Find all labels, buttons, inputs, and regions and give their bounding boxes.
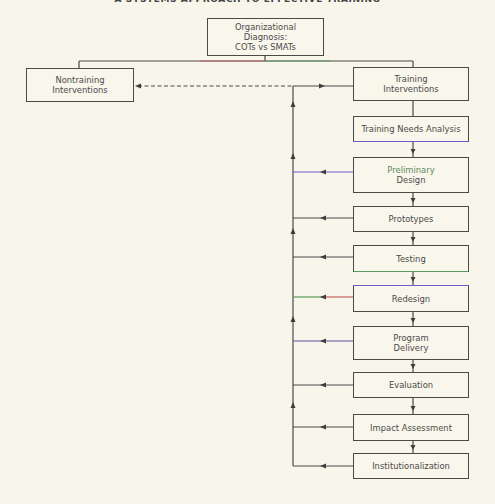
node-prototypes: Prototypes <box>353 206 469 232</box>
node-label: Diagnosis: <box>244 32 288 42</box>
arrow-left-icon <box>320 464 326 469</box>
node-evaluation: Evaluation <box>353 372 469 398</box>
arrow-up-icon <box>291 228 296 234</box>
node-training-needs-analysis: Training Needs Analysis <box>353 116 469 142</box>
arrow-up-icon <box>291 153 296 159</box>
arrow-left-icon <box>320 383 326 388</box>
node-label: Delivery <box>394 343 429 353</box>
node-testing: Testing <box>353 245 469 272</box>
arrow-left-icon <box>320 255 326 260</box>
node-label: Interventions <box>383 84 438 94</box>
arrow-left-icon <box>320 295 326 300</box>
node-label: Institutionalization <box>372 461 450 471</box>
node-label: Interventions <box>52 85 107 95</box>
arrow-right-icon <box>319 84 325 89</box>
arrow-up-icon <box>291 402 296 408</box>
node-training-interventions: Training Interventions <box>353 67 469 101</box>
node-label: Preliminary <box>387 165 434 175</box>
arrow-left-icon <box>320 216 326 221</box>
node-label: COTs vs SMATs <box>235 42 296 52</box>
node-label: Program <box>393 333 428 343</box>
arrow-left-icon <box>320 339 326 344</box>
node-label: Design <box>397 175 426 185</box>
arrow-up-icon <box>291 316 296 322</box>
arrow-up-icon <box>291 101 296 107</box>
node-nontraining-interventions: Nontraining Interventions <box>26 68 134 102</box>
node-label: Training <box>394 74 427 84</box>
node-impact-assessment: Impact Assessment <box>353 414 469 441</box>
node-institutionalization: Institutionalization <box>353 453 469 479</box>
node-label: Impact Assessment <box>370 423 452 433</box>
arrow-left-icon <box>320 170 326 175</box>
node-label: Testing <box>396 254 425 264</box>
node-label: Redesign <box>392 294 430 304</box>
node-label: Evaluation <box>389 380 433 390</box>
root-node-organizational-diagnosis: Organizational Diagnosis: COTs vs SMATs <box>207 18 324 56</box>
node-label: Organizational <box>235 22 296 32</box>
arrow-left-icon <box>135 84 141 89</box>
node-program-delivery: Program Delivery <box>353 326 469 360</box>
node-redesign: Redesign <box>353 285 469 312</box>
arrow-left-icon <box>320 425 326 430</box>
node-label: Training Needs Analysis <box>361 124 460 134</box>
node-label: Prototypes <box>389 214 434 224</box>
node-label: Nontraining <box>55 75 104 85</box>
node-preliminary-design: Preliminary Design <box>353 157 469 193</box>
